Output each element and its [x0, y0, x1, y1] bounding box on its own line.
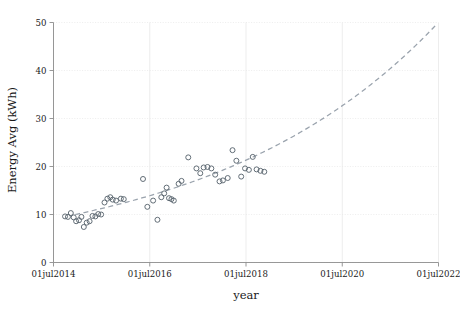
exponential-trend-line: [75, 25, 436, 215]
y-tick-label: 0: [41, 258, 46, 268]
data-point: [151, 198, 156, 203]
data-point: [194, 166, 199, 171]
x-tick-label: 01jul2018: [224, 269, 268, 279]
y-tick-label: 40: [36, 66, 47, 76]
x-tick-label: 01jul2014: [32, 269, 76, 279]
data-point: [155, 217, 160, 222]
data-point: [162, 191, 167, 196]
data-point: [198, 171, 203, 176]
data-point: [230, 148, 235, 153]
data-point: [114, 198, 119, 203]
fit-curve-group: [75, 25, 436, 215]
data-point: [141, 176, 146, 181]
y-tick-label: 30: [36, 114, 47, 124]
data-point: [225, 176, 230, 181]
x-axis-title: year: [232, 288, 259, 302]
data-point: [220, 178, 225, 183]
data-point: [164, 185, 169, 190]
y-tick-label: 10: [36, 210, 47, 220]
x-tick-label: 01jul2022: [417, 269, 460, 279]
data-point: [217, 179, 222, 184]
data-point: [239, 174, 244, 179]
y-axis-title: Energy Avg (kWh): [5, 87, 19, 193]
y-axis: 01020304050: [36, 18, 54, 268]
y-tick-label: 50: [36, 18, 47, 28]
grid-lines: [54, 23, 439, 263]
data-point: [186, 155, 191, 160]
x-axis: 01jul201401jul201601jul201801jul202001ju…: [32, 263, 460, 279]
data-point: [176, 181, 181, 186]
x-tick-label: 01jul2016: [128, 269, 172, 279]
data-point: [145, 204, 150, 209]
energy-avg-scatter-chart: 01020304050 01jul201401jul201601jul20180…: [0, 0, 460, 309]
scatter-points: [63, 148, 267, 230]
x-tick-label: 01jul2020: [320, 269, 364, 279]
data-point: [234, 158, 239, 163]
data-point: [179, 178, 184, 183]
y-tick-label: 20: [36, 162, 47, 172]
chart-canvas: 01020304050 01jul201401jul201601jul20180…: [0, 0, 460, 309]
